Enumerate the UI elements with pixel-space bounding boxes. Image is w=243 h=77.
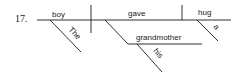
item-number: 17. bbox=[15, 13, 28, 24]
direct-object-modifier-word: a bbox=[212, 22, 222, 32]
subject-word: boy bbox=[52, 10, 65, 19]
sentence-diagram: 17. boy The gave grandmother his hug a bbox=[0, 0, 243, 77]
indirect-object-modifier-word: his bbox=[151, 47, 164, 61]
indirect-object-word: grandmother bbox=[136, 33, 182, 42]
verb-word: gave bbox=[128, 9, 146, 18]
direct-object-word: hug bbox=[198, 8, 211, 17]
